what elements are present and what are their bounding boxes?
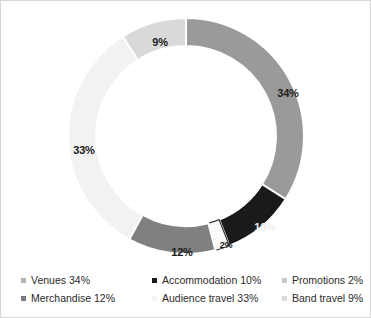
legend-label: Band travel 9% — [292, 289, 363, 307]
slice-label-accommodation: 10% — [254, 221, 275, 233]
donut-slice-accommodation[interactable] — [219, 184, 286, 245]
legend-swatch-icon — [152, 296, 157, 301]
legend-item-venues-34[interactable]: Venues 34% — [1, 271, 148, 289]
legend-item-audience-travel-33[interactable]: Audience travel 33% — [148, 289, 272, 307]
legend-label: Venues 34% — [31, 271, 90, 289]
chart-legend: Venues 34%Accommodation 10%Promotions 2%… — [1, 268, 371, 317]
donut-slice-venues[interactable] — [186, 18, 304, 199]
slice-label-merchandise: 12% — [171, 246, 192, 258]
slice-label-band-travel: 9% — [152, 36, 168, 48]
legend-swatch-icon — [282, 296, 287, 301]
legend-swatch-icon — [282, 278, 287, 283]
donut-slice-group — [68, 18, 304, 254]
legend-label: Merchandise 12% — [31, 289, 115, 307]
slice-label-venues: 34% — [277, 87, 298, 99]
slice-label-audience-travel: 33% — [73, 144, 94, 156]
donut-chart-svg — [1, 1, 371, 266]
legend-item-promotions-2[interactable]: Promotions 2% — [272, 271, 371, 289]
legend-swatch-icon — [21, 278, 26, 283]
legend-label: Accommodation 10% — [162, 271, 261, 289]
donut-chart-figure: 34%10%2%12%33%9% Venues 34%Accommodation… — [0, 0, 371, 318]
donut-slice-audience-travel[interactable] — [68, 36, 143, 239]
legend-item-accommodation-10[interactable]: Accommodation 10% — [148, 271, 272, 289]
legend-item-merchandise-12[interactable]: Merchandise 12% — [1, 289, 148, 307]
legend-label: Promotions 2% — [292, 271, 363, 289]
legend-item-band-travel-9[interactable]: Band travel 9% — [272, 289, 371, 307]
legend-swatch-icon — [21, 296, 26, 301]
chart-plot-area: 34%10%2%12%33%9% — [1, 1, 371, 266]
legend-label: Audience travel 33% — [162, 289, 258, 307]
slice-label-promotions: 2% — [220, 240, 233, 250]
legend-swatch-icon — [152, 278, 157, 283]
